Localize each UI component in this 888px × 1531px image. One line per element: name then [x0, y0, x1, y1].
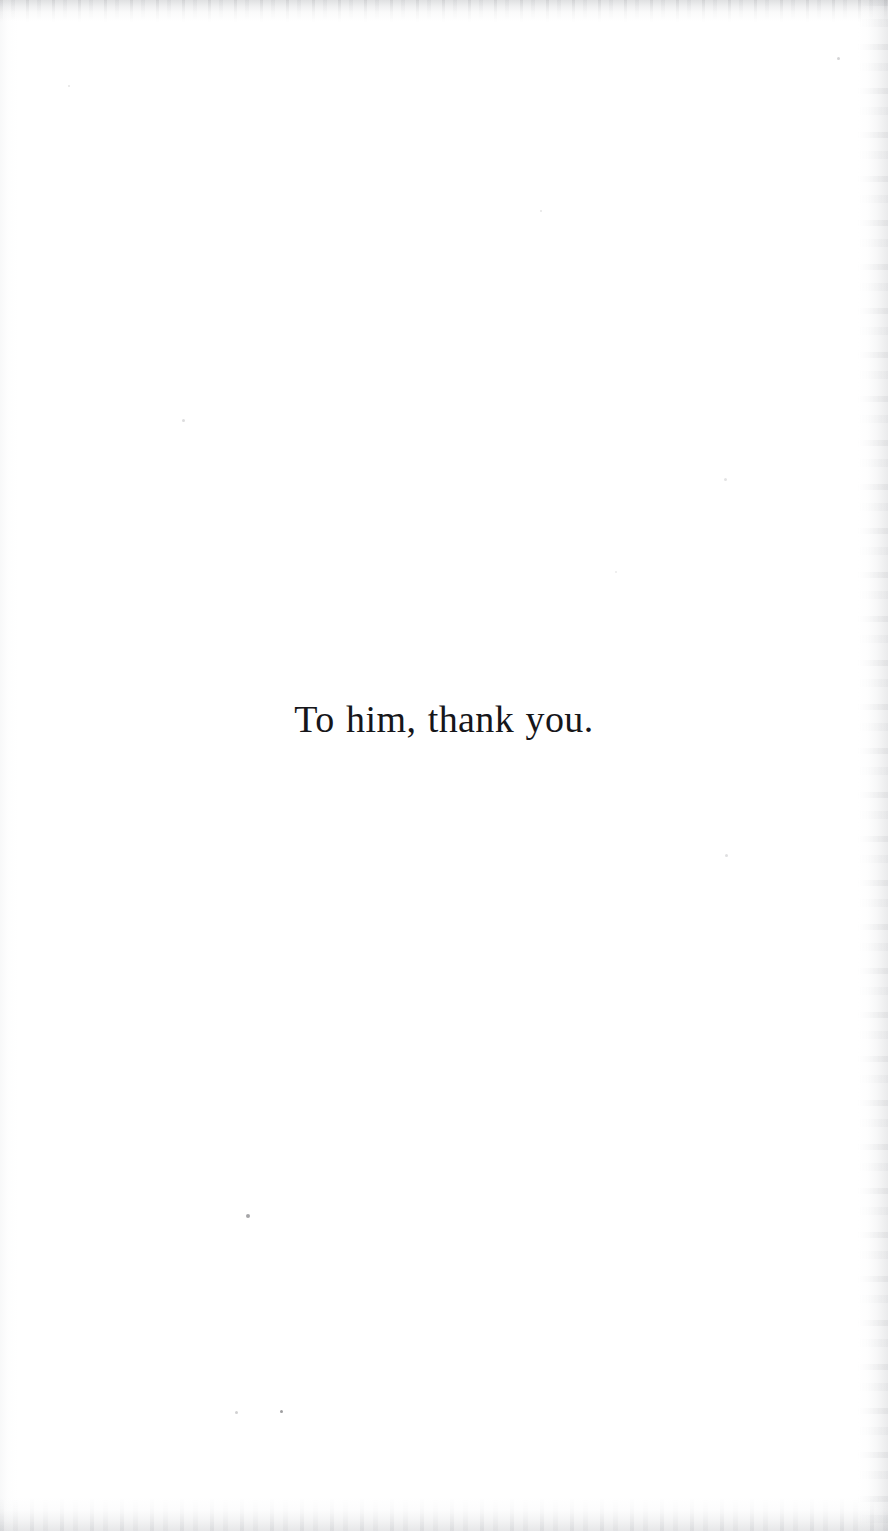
scan-speck — [837, 57, 840, 60]
scan-speck — [724, 478, 727, 481]
scan-speck — [235, 1411, 238, 1414]
scan-speck — [182, 419, 185, 422]
dedication-page: To him, thank you. — [0, 0, 888, 1531]
scan-edge-bottom — [0, 1497, 888, 1531]
scan-speck — [68, 85, 70, 87]
scan-speck — [615, 571, 617, 573]
dedication-text: To him, thank you. — [294, 697, 593, 741]
scan-edge-left — [0, 0, 18, 1531]
scan-speck — [246, 1214, 250, 1218]
scan-speck — [725, 854, 728, 857]
scan-speck — [540, 210, 542, 212]
dedication-block: To him, thank you. — [0, 697, 888, 741]
scan-edge-right — [858, 0, 888, 1531]
scan-speck — [280, 1410, 283, 1413]
scan-edge-top — [0, 0, 888, 22]
